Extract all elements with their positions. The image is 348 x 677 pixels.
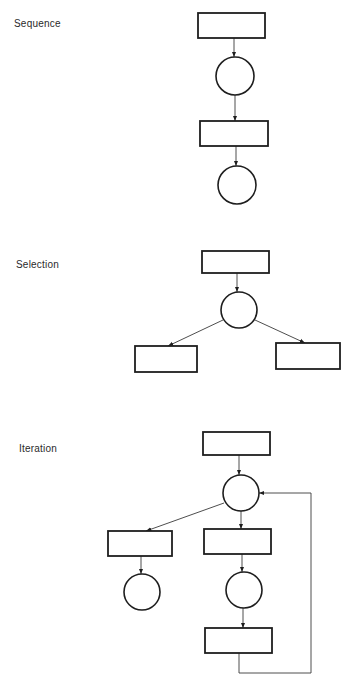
process-box-seq-box-2 [200, 121, 268, 146]
decision-circle-it-circle-left [124, 574, 160, 610]
arrow-sel-circle-to-sel-box-right [255, 320, 305, 343]
decision-circle-it-circle [223, 475, 259, 511]
process-box-it-box-mid [204, 529, 271, 554]
nodes-layer [108, 13, 340, 653]
decision-circle-seq-circle-2 [218, 166, 256, 204]
process-box-it-box-top [203, 432, 270, 455]
diagram-canvas [0, 0, 348, 677]
arrow-it-circle-to-it-box-left [146, 503, 224, 531]
decision-circle-seq-circle-1 [216, 57, 254, 95]
decision-circle-it-circle-mid [226, 572, 262, 608]
process-box-sel-box-right [276, 343, 340, 369]
process-box-it-box-left [108, 531, 172, 556]
decision-circle-sel-circle [221, 292, 257, 328]
process-box-it-box-bottom [205, 628, 272, 653]
process-box-sel-box-top [202, 251, 269, 273]
arrow-sel-circle-to-sel-box-left [168, 320, 223, 346]
process-box-sel-box-left [135, 346, 197, 372]
process-box-seq-box-1 [198, 13, 265, 38]
